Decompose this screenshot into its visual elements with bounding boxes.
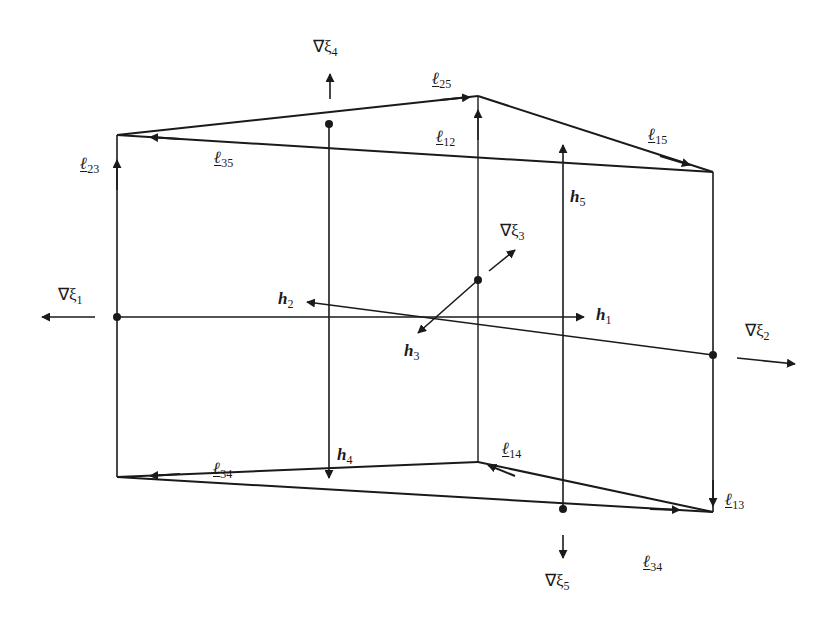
grad-xi2-label: ∇ξ2	[745, 322, 770, 342]
face2-dot	[709, 351, 717, 359]
h5-label: h5	[570, 188, 585, 208]
grad-xi3-label: ∇ξ3	[500, 222, 525, 242]
l34-label-bottom-left: ℓ34	[213, 460, 232, 480]
prism-diagram	[0, 0, 828, 630]
l13-label: ℓ13	[725, 491, 744, 511]
l35-label: ℓ35	[214, 149, 233, 169]
face1-dot	[113, 313, 121, 321]
edge-top-left-right	[117, 135, 713, 172]
grad-xi4-label: ∇ξ4	[313, 38, 338, 58]
l34-label-bottom-right: ℓ34	[643, 553, 662, 573]
face3-dot	[474, 276, 482, 284]
l12-label: ℓ12	[436, 128, 455, 148]
face5-dot	[559, 505, 567, 513]
edge-bottom-left-right	[117, 477, 713, 512]
grad-xi1-label: ∇ξ1	[58, 286, 83, 306]
edge-top-left-apex	[117, 96, 478, 135]
h3-vector	[418, 280, 478, 333]
h4-label: h4	[337, 446, 352, 466]
face4-dot	[325, 120, 333, 128]
h3-label: h3	[404, 342, 419, 362]
l25-label: ℓ25	[432, 70, 451, 90]
l23-label: ℓ23	[80, 155, 99, 175]
grad-xi5-label: ∇ξ5	[545, 572, 570, 592]
grad-xi3-vector	[489, 250, 515, 271]
l15-label: ℓ15	[648, 126, 667, 146]
h1-label: h1	[596, 306, 611, 326]
h2-vector	[307, 302, 713, 355]
grad-xi2-vector	[737, 358, 795, 364]
l14-label: ℓ14	[502, 440, 521, 460]
h2-label: h2	[278, 290, 293, 310]
